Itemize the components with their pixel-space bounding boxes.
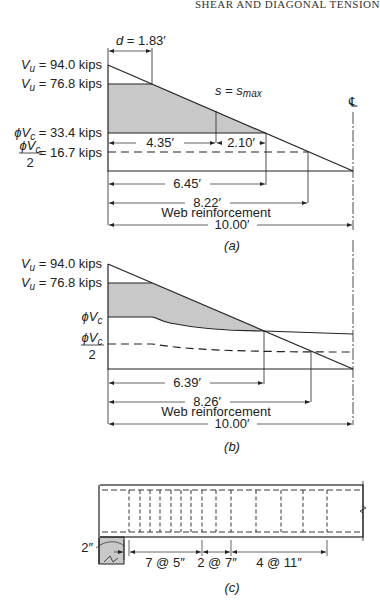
d-label: d = 1.83′ xyxy=(116,33,166,48)
caption-b: (b) xyxy=(224,439,240,454)
caption-a: (a) xyxy=(224,238,240,253)
phivc-half-numerator: ϕVc xyxy=(82,330,103,347)
dim-6-45: 6.45′ xyxy=(173,176,201,191)
diagram-c: 2″ 7 @ 5″ 2 @ 7″ 4 @ 11″ (c) xyxy=(81,481,366,595)
phivc-label: ϕVc xyxy=(82,309,103,326)
beam-shear-diagrams: SHEAR AND DIAGONAL TENSION d = 1.83′ s =… xyxy=(0,0,380,609)
dim-10-00: 10.00′ xyxy=(215,217,251,232)
diagram-b: 6.39′ 8.26′ Web reinforcement 10.00′ Vu … xyxy=(21,240,353,454)
vu-max-label: Vu = 94.0 kips xyxy=(21,256,103,273)
support-offset-label: 2″ xyxy=(81,540,93,555)
vu-crit-label: Vu = 76.8 kips xyxy=(21,275,103,292)
support-column xyxy=(99,537,124,564)
smax-label: s = smax xyxy=(215,83,263,99)
diagram-a: d = 1.83′ s = smax ℄ 4.35′ 2.10′ 6.45′ 8… xyxy=(14,33,358,253)
vu-crit-label: Vu = 76.8 kips xyxy=(21,76,103,93)
phivc-half-denominator: 2 xyxy=(26,155,33,170)
spacing-2-at-7: 2 @ 7″ xyxy=(197,555,237,570)
dim-4-35: 4.35′ xyxy=(146,135,174,150)
centerline-symbol: ℄ xyxy=(348,94,358,109)
running-header: SHEAR AND DIAGONAL TENSION xyxy=(195,0,380,10)
dim-2-10: 2.10′ xyxy=(227,135,255,150)
phivc-half-denominator: 2 xyxy=(88,347,95,362)
vu-max-label: Vu = 94.0 kips xyxy=(21,57,103,74)
stirrups xyxy=(129,490,327,532)
dim-6-39: 6.39′ xyxy=(173,375,201,390)
spacing-4-at-11: 4 @ 11″ xyxy=(256,555,302,570)
phivc-half-curve xyxy=(108,344,353,352)
spacing-7-at-5: 7 @ 5″ xyxy=(145,555,185,570)
phivc-half-numerator: ϕVc xyxy=(20,138,41,155)
caption-c: (c) xyxy=(224,580,239,595)
dim-10-00: 10.00′ xyxy=(215,416,251,431)
shaded-stirrup-region xyxy=(108,283,264,331)
phivc-half-value: = 16.7 kips xyxy=(39,145,103,160)
